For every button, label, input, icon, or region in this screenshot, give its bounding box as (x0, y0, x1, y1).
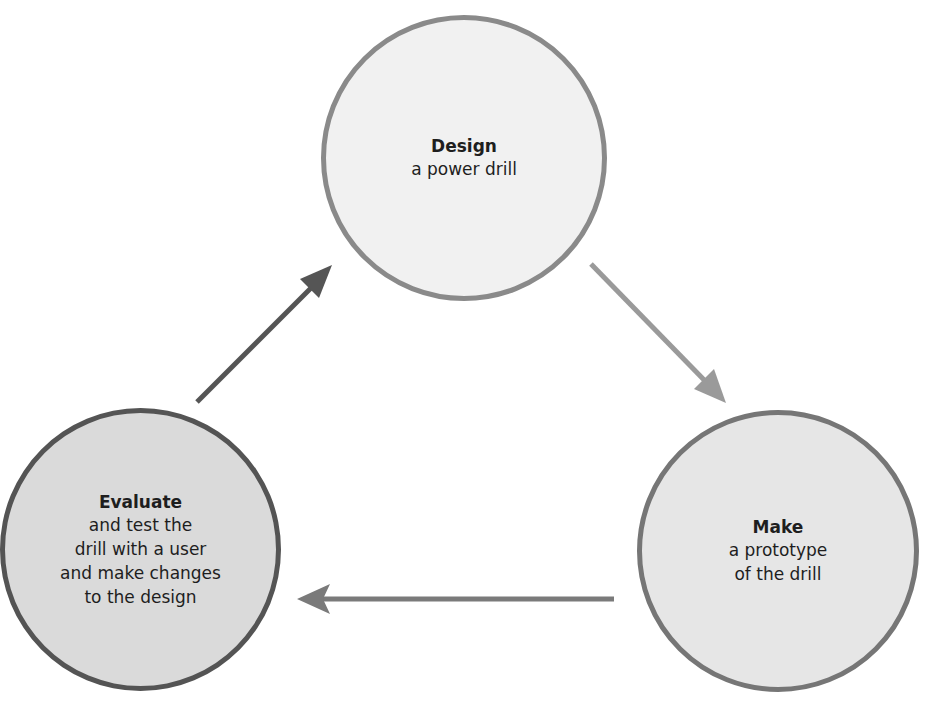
design-cycle-diagram: Design a power drill Make a prototype of… (0, 0, 936, 710)
arrow-design-to-make (591, 264, 726, 403)
arrow-evaluate-to-design (197, 265, 332, 402)
node-evaluate: Evaluate and test the drill with a user … (0, 408, 281, 691)
node-design-desc: a power drill (411, 157, 517, 181)
arrow-make-to-evaluate (297, 584, 614, 614)
node-evaluate-title: Evaluate (99, 491, 182, 513)
node-evaluate-desc: and test the drill with a user and make … (60, 513, 221, 609)
node-make: Make a prototype of the drill (637, 410, 919, 692)
node-design: Design a power drill (321, 15, 607, 301)
node-make-desc: a prototype of the drill (729, 538, 828, 586)
node-make-title: Make (753, 516, 804, 538)
node-design-title: Design (431, 135, 497, 157)
